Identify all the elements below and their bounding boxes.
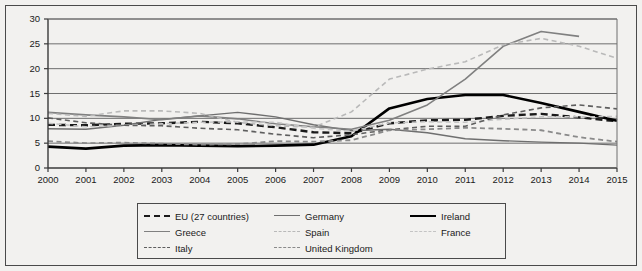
legend-entry-spain: Spain (274, 224, 410, 240)
legend-entry-greece: Greece (144, 224, 274, 240)
y-axis-tick-label: 0 (18, 162, 40, 173)
legend-swatch-line (274, 231, 300, 232)
x-axis-tick-label: 2002 (107, 174, 141, 185)
x-axis-tick-label: 2013 (524, 174, 558, 185)
y-axis-tick-label: 5 (18, 137, 40, 148)
legend-entry-ireland: Ireland (410, 208, 506, 224)
legend-label: Italy (175, 243, 192, 254)
x-axis-tick-label: 2009 (372, 174, 406, 185)
legend-swatch-line (274, 215, 300, 216)
legend-label: EU (27 countries) (175, 211, 249, 222)
legend-swatch-line (274, 247, 300, 248)
chart-legend: EU (27 countries)GermanyIrelandGreeceSpa… (137, 203, 506, 259)
legend-entry-germany: Germany (274, 208, 410, 224)
legend-label: France (441, 227, 471, 238)
x-axis-tick-label: 2008 (334, 174, 368, 185)
legend-grid: EU (27 countries)GermanyIrelandGreeceSpa… (144, 208, 499, 256)
legend-label: Germany (305, 211, 344, 222)
y-axis-tick-label: 10 (18, 112, 40, 123)
legend-entry-france: France (410, 224, 506, 240)
y-axis-tick-label: 30 (18, 13, 40, 24)
x-axis-tick-label: 2000 (31, 174, 65, 185)
legend-entry-united-kingdom: United Kingdom (274, 240, 410, 256)
x-axis-tick-label: 2004 (183, 174, 217, 185)
y-axis-tick-label: 20 (18, 63, 40, 74)
x-axis-tick-label: 2003 (145, 174, 179, 185)
x-axis-tick-label: 2001 (69, 174, 103, 185)
legend-swatch-line (410, 215, 436, 217)
legend-swatch-line (144, 215, 170, 217)
legend-swatch-line (144, 231, 170, 232)
x-axis-tick-label: 2015 (600, 174, 634, 185)
x-axis-tick-label: 2007 (297, 174, 331, 185)
legend-entry-eu-27-countries: EU (27 countries) (144, 208, 274, 224)
legend-swatch-line (144, 247, 170, 248)
legend-label: Ireland (441, 211, 470, 222)
x-axis-tick-label: 2012 (486, 174, 520, 185)
legend-label: Greece (175, 227, 206, 238)
chart-figure: 0510152025302000200120022003200420052006… (0, 0, 642, 271)
legend-label: Spain (305, 227, 329, 238)
y-axis-tick-label: 15 (18, 88, 40, 99)
y-axis-tick-label: 25 (18, 38, 40, 49)
legend-swatch-line (410, 231, 436, 232)
legend-entry-italy: Italy (144, 240, 274, 256)
legend-label: United Kingdom (305, 243, 373, 254)
x-axis-tick-label: 2005 (221, 174, 255, 185)
x-axis-tick-label: 2010 (410, 174, 444, 185)
x-axis-tick-label: 2011 (448, 174, 482, 185)
x-axis-tick-label: 2014 (562, 174, 596, 185)
x-axis-tick-label: 2006 (259, 174, 293, 185)
